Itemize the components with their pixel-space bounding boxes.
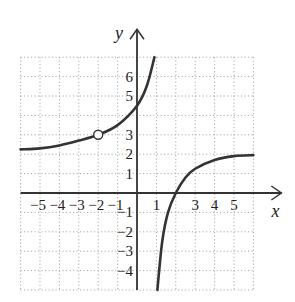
open-point-icon [94,130,103,139]
y-tick-label: −1 [117,204,133,220]
x-tick-label: 1 [153,197,161,213]
y-tick-label: −3 [117,243,133,259]
y-tick-label: 2 [126,146,134,162]
curve-right-branch [157,155,253,290]
x-tick-label: 4 [211,197,219,213]
y-axis-label: y [113,23,123,43]
y-tick-label: 3 [126,127,134,143]
x-tick-label: −2 [88,197,104,213]
x-tick-label: −4 [49,197,65,213]
y-tick-label: −2 [117,224,133,240]
y-tick-label: 5 [126,88,134,104]
y-tick-label: 1 [126,166,134,182]
x-tick-label: −3 [69,197,85,213]
x-axis-label: x [270,201,279,221]
x-tick-label: −5 [30,197,46,213]
y-tick-label: −4 [117,263,133,279]
curve-left-branch [21,57,155,149]
x-tick-label: 3 [191,197,199,213]
rational-function-graph: −5−4−3−2−1134565321−1−2−3−4 x y [0,0,295,302]
x-tick-label: 5 [230,197,238,213]
open-point-markers [94,130,103,139]
y-tick-label: 6 [126,69,134,85]
